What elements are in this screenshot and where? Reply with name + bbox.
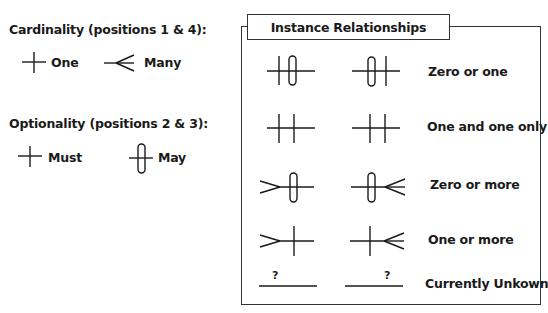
bar-oval-icon — [267, 55, 317, 87]
oval-crowsfoot-icon — [351, 172, 407, 204]
row-label-one-or-more: One or more — [428, 232, 514, 247]
bar-bar-icon — [352, 113, 402, 145]
bar-crowsfoot-icon — [350, 225, 406, 257]
may-oval-icon — [129, 143, 155, 175]
bar-bar-icon — [267, 113, 317, 145]
unknown-marker-right: ? — [384, 269, 390, 282]
crows-foot-icon — [104, 52, 136, 74]
row-label-currently-unknown: Currently Unkown — [425, 276, 548, 291]
cardinality-one-label: One — [51, 55, 78, 70]
instance-relationships-title-box: Instance Relationships — [247, 14, 450, 40]
one-bar-icon — [22, 52, 48, 74]
row-label-zero-or-more: Zero or more — [430, 177, 520, 192]
unknown-line-left-icon — [259, 284, 319, 288]
optionality-must-label: Must — [48, 150, 82, 165]
optionality-heading: Optionality (positions 2 & 3): — [9, 116, 208, 131]
cardinality-heading: Cardinality (positions 1 & 4): — [9, 22, 207, 37]
cardinality-many-label: Many — [144, 55, 181, 70]
oval-bar-icon — [352, 55, 402, 87]
unknown-line-right-icon — [345, 284, 405, 288]
crowsfoot-bar-icon — [260, 225, 316, 257]
crowsfoot-oval-icon — [260, 172, 316, 204]
must-bar-icon — [18, 146, 44, 168]
optionality-may-label: May — [158, 150, 186, 165]
instance-relationships-title: Instance Relationships — [271, 20, 427, 35]
row-label-one-and-one-only: One and one only — [427, 119, 547, 134]
unknown-marker-left: ? — [272, 269, 278, 282]
row-label-zero-or-one: Zero or one — [428, 64, 508, 79]
